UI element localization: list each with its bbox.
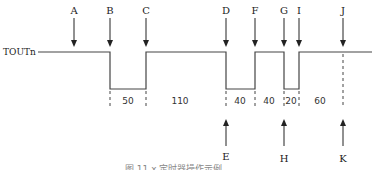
marker-label-F: F [252,5,259,16]
signal-label: TOUTn [3,47,36,57]
arrow-down-icon-B [107,18,113,47]
arrow-up-icon-H [281,119,287,146]
marker-label-G: G [280,5,288,16]
arrow-down-icon-A [71,18,77,47]
duration-label: 110 [171,96,188,106]
marker-label-C: C [142,5,150,16]
bottom-arrows [223,119,346,146]
duration-label: 40 [263,96,275,106]
marker-label-B: B [106,5,113,16]
marker-label-A: A [69,5,78,16]
bottom-labels: E H K [222,151,347,164]
top-arrows [71,18,346,47]
figure-caption: 图 11.x 定时器操作示例 [125,163,222,170]
marker-label-J: J [340,5,345,16]
top-labels: A B C D F G I J [69,5,345,16]
arrow-down-icon-F [252,18,258,47]
arrow-down-icon-G [281,18,287,47]
arrow-down-icon-C [143,18,149,47]
marker-label-D: D [222,5,230,16]
marker-label-E: E [222,151,229,162]
duration-label: 60 [314,96,326,106]
arrow-down-icon-J [340,18,346,47]
arrow-down-icon-D [223,18,229,47]
marker-label-H: H [280,153,289,164]
tout-waveform [38,52,372,89]
arrow-up-icon-K [340,119,346,146]
marker-label-I: I [297,5,301,16]
duration-labels: 50 110 40 40 20 60 [122,96,326,106]
duration-label: 40 [234,96,246,106]
duration-label: 50 [122,96,134,106]
marker-label-K: K [339,153,347,164]
duration-label: 20 [285,96,297,106]
arrow-up-icon-E [223,119,229,146]
arrow-down-icon-I [296,18,302,47]
timing-diagram: TOUTn A B C D F G I J 50 110 40 4 [0,0,376,170]
